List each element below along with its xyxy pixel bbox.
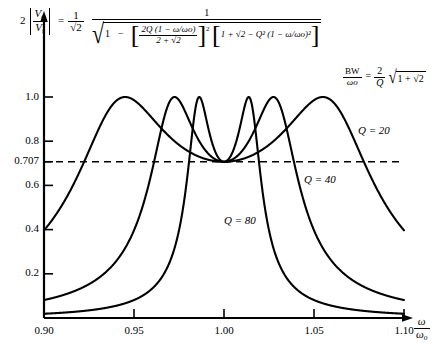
figure-container: 0.20.40.60.7070.81.0 0.900.951.001.051.1… (0, 0, 440, 356)
x-tick-marks (44, 309, 404, 318)
transfer-function-formula: 1 √ 1 − [2Q (1 − ω/ωo)2 + √2]2 [1 + √2 −… (92, 7, 321, 45)
x-tick-label: 0.95 (114, 324, 154, 336)
bracket-term-2: [1 + √2 − Q² (1 − ω/ωo)²] (212, 27, 319, 43)
curve-label-q20: Q = 20 (358, 124, 390, 136)
chart-plot (0, 0, 440, 356)
y-tick-label: 0.6 (0, 178, 39, 190)
bracket2-content: 1 + √2 − Q² (1 − ω/ωo)² (221, 29, 311, 39)
y-expr-prefactor: 1√2 (68, 10, 84, 34)
y-tick-marks (44, 97, 53, 274)
y-expr-lead: 2 (20, 14, 26, 26)
bw-radicand: 1 + √2 (396, 71, 426, 84)
curve-q40 (44, 97, 404, 300)
y-tick-label: 1.0 (0, 90, 39, 102)
curve-label-q80: Q = 80 (224, 214, 256, 226)
x-tick-label: 1.05 (294, 324, 334, 336)
response-curves (44, 97, 404, 314)
denom-lead: 1 (105, 28, 110, 39)
bw-equals: = (366, 70, 372, 81)
bandwidth-formula: BWωo=2Q√1 + √2 (343, 66, 426, 88)
formula-denominator: √ 1 − [2Q (1 − ω/ωo)2 + √2]2 [1 + √2 − Q… (92, 20, 321, 45)
y-expr-equals: = (58, 14, 64, 26)
sqrt-icon: √ (92, 24, 104, 43)
y-expr-num: Vo (33, 8, 47, 21)
sqrt-icon-bw: √ (388, 70, 396, 83)
bw-rhs-frac: 2Q (374, 66, 385, 88)
bracket1-num: 2Q (1 − ω/ωo) (139, 25, 197, 34)
y-tick-label: 0.8 (0, 134, 39, 146)
formula-numerator: 1 (92, 7, 321, 20)
axes-group (40, 11, 413, 322)
bracket1-exponent: 2 (206, 25, 209, 32)
curve-q20 (44, 97, 404, 230)
x-tick-label: 0.90 (24, 324, 64, 336)
x-axis-title: ωωo (414, 316, 430, 342)
curve-label-q40: Q = 40 (304, 173, 336, 185)
y-tick-label: 0.2 (0, 266, 39, 278)
y-expr-den: Vi (33, 21, 47, 35)
x-tick-label: 1.00 (204, 324, 244, 336)
denom-minus: − (118, 28, 124, 39)
y-axis-expression: 2VoVi=1√2 (20, 8, 84, 35)
bracket-term-1: [2Q (1 − ω/ωo)2 + √2]2 (131, 25, 210, 45)
bw-ratio: BWωo (343, 67, 362, 87)
y-expr-magnitude-bars: VoVi (30, 8, 50, 35)
y-tick-label: 0.707 (0, 154, 39, 166)
y-tick-label: 0.4 (0, 222, 39, 234)
bracket1-den: 2 + √2 (139, 35, 197, 45)
